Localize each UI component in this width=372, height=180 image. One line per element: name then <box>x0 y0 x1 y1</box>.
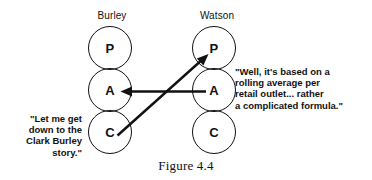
figure-canvas: Burley Watson P A C P A C "Let me get do… <box>0 0 372 180</box>
ego-state-letter: C <box>89 111 131 153</box>
column-label-burley: Burley <box>80 10 144 21</box>
speech-text-burley: "Let me get down to the Clark Burley sto… <box>6 113 82 158</box>
ego-state-letter: A <box>193 69 235 111</box>
ego-state-watson-adult: A <box>192 68 236 112</box>
ego-state-burley-parent: P <box>88 26 132 70</box>
figure-caption: Figure 4.4 <box>0 158 372 174</box>
ego-state-letter: P <box>193 27 235 69</box>
ego-state-burley-child: C <box>88 110 132 154</box>
ego-state-letter: A <box>89 69 131 111</box>
ego-state-letter: P <box>89 27 131 69</box>
ego-state-burley-adult: A <box>88 68 132 112</box>
speech-text-watson: "Well, it's based on a rolling average p… <box>235 66 371 111</box>
ego-state-watson-parent: P <box>192 26 236 70</box>
ego-state-watson-child: C <box>192 110 236 154</box>
column-label-watson: Watson <box>184 10 250 21</box>
ego-state-letter: C <box>193 111 235 153</box>
